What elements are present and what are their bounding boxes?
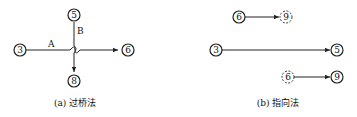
node-6-label: 6 [125, 45, 131, 55]
node-bot-9-label: 9 [334, 72, 340, 82]
caption-a: (a) 过桥法 [54, 97, 96, 108]
node-8-label: 8 [71, 76, 77, 86]
activity-label-a: A [47, 39, 55, 49]
node-3-label: 3 [17, 45, 23, 55]
panel-a-bridge-method: 3 5 6 8 A B (a) 过桥法 [14, 9, 134, 108]
node-mid-3: 3 [210, 44, 222, 56]
node-bot-6-dashed: 6 [282, 71, 294, 83]
panel-b-pointer-method: 6 9 3 5 6 9 (b) 指向法 [210, 11, 343, 108]
node-3: 3 [14, 44, 26, 56]
node-bot-9: 9 [331, 71, 343, 83]
node-5: 5 [68, 9, 80, 21]
node-mid-5-label: 5 [334, 45, 340, 55]
node-mid-5: 5 [331, 44, 343, 56]
node-bot-6-label: 6 [285, 72, 291, 82]
node-top-6-label: 6 [236, 12, 242, 22]
activity-label-b: B [77, 26, 84, 36]
arrow-a-3-to-6 [26, 47, 118, 53]
caption-b: (b) 指向法 [257, 97, 300, 108]
node-top-9-dashed: 9 [280, 11, 292, 23]
node-mid-3-label: 3 [213, 45, 219, 55]
diagram-canvas: 3 5 6 8 A B (a) 过桥法 6 9 [0, 0, 357, 117]
node-5-label: 5 [71, 10, 77, 20]
node-8: 8 [68, 75, 80, 87]
node-top-6: 6 [233, 11, 245, 23]
node-6: 6 [122, 44, 134, 56]
node-top-9-label: 9 [283, 12, 289, 22]
